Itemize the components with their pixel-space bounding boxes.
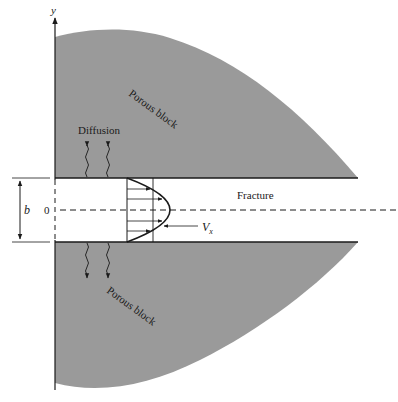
y-axis-label: y	[50, 4, 56, 16]
lower-porous-block	[55, 242, 358, 388]
diffusion-label: Diffusion	[78, 124, 120, 136]
origin-label: 0	[44, 204, 50, 216]
fracture-label: Fracture	[237, 189, 274, 201]
upper-porous-block	[55, 30, 358, 178]
velocity-label: Vx	[202, 220, 213, 236]
aperture-label: b	[24, 203, 30, 217]
fracture-flow-diagram: y Porous block Diffusion Fracture b 0 Vx…	[0, 0, 398, 402]
